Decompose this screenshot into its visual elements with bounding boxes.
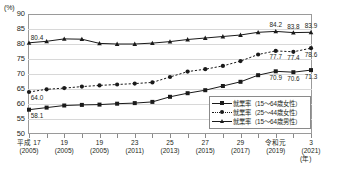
x-tick-2014: [188, 134, 189, 138]
chart-legend: 就業率（15～64歳女性）就業率（25～44歳女性）就業率（15～64歳男性）: [209, 96, 311, 129]
y-tick-80: 80: [6, 40, 25, 48]
x-tick-2019: [276, 134, 277, 138]
legend-item-1[interactable]: 就業率（25～44歳女性）: [212, 108, 307, 117]
y-tick-70: 70: [6, 70, 25, 78]
legend-marker-square-icon: [220, 101, 224, 105]
x-tick-2016: [223, 134, 224, 138]
x-tick-2012: [152, 134, 153, 138]
x-tick-2008: [82, 134, 83, 138]
legend-item-0[interactable]: 就業率（15～64歳女性）: [212, 99, 307, 108]
x-tick-2010: [117, 134, 118, 138]
employment-rate-line-chart: (%) 908580757065605550 平成 17(2005)19(200…: [0, 0, 340, 171]
legend-swatch-square-icon: [212, 99, 232, 108]
y-tick-55: 55: [6, 115, 25, 123]
legend-swatch-circle-icon: [212, 108, 232, 117]
x-tick-2021: [311, 134, 312, 138]
gridline-80: [28, 44, 312, 45]
legend-marker-triangle-icon: [220, 119, 224, 123]
value-label-0-2021: 71.3: [305, 74, 317, 80]
value-label-1-2019: 77.7: [270, 54, 282, 60]
y-tick-90: 90: [6, 10, 25, 18]
legend-label-1: 就業率（25～44歳女性）: [232, 109, 301, 116]
x-tick-2017: [241, 134, 242, 138]
y-tick-65: 65: [6, 85, 25, 93]
legend-swatch-triangle-icon: [212, 117, 232, 126]
y-tick-50: 50: [6, 130, 25, 138]
x-tick-2020: [293, 134, 294, 138]
value-label-1-2020: 77.4: [287, 55, 299, 61]
gridline-65: [28, 89, 312, 90]
x-axis-unit-label: (年): [300, 155, 311, 163]
value-label-0-2020: 70.6: [287, 76, 299, 82]
value-label-1-2005: 64.0: [31, 95, 43, 101]
x-tick-2013: [170, 134, 171, 138]
value-label-2-2019: 84.2: [270, 22, 282, 28]
x-tick-label-8: 3(2021): [288, 139, 334, 155]
gridline-85: [28, 29, 312, 30]
x-tick-2007: [64, 134, 65, 138]
value-label-2-2005: 80.4: [31, 35, 43, 41]
value-label-2-2021: 83.9: [305, 23, 317, 29]
x-tick-2011: [135, 134, 136, 138]
legend-item-2[interactable]: 就業率（15～64歳男性）: [212, 117, 307, 126]
y-tick-60: 60: [6, 100, 25, 108]
value-label-0-2005: 58.1: [31, 113, 43, 119]
x-tick-2005: [29, 134, 30, 138]
y-tick-75: 75: [6, 55, 25, 63]
value-label-2-2020: 83.8: [287, 24, 299, 30]
value-label-0-2019: 70.9: [270, 75, 282, 81]
x-tick-2009: [100, 134, 101, 138]
y-tick-85: 85: [6, 25, 25, 33]
x-tick-2018: [258, 134, 259, 138]
x-tick-2006: [47, 134, 48, 138]
x-tick-year: (2021): [288, 147, 334, 155]
legend-label-0: 就業率（15～64歳女性）: [232, 100, 301, 107]
x-tick-era: 3: [288, 139, 334, 147]
value-label-1-2021: 78.6: [305, 52, 317, 58]
x-tick-2015: [205, 134, 206, 138]
legend-label-2: 就業率（15～64歳男性）: [232, 118, 301, 125]
legend-marker-circle-icon: [220, 110, 224, 114]
